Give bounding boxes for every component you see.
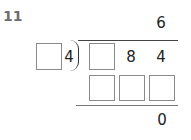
quotient-digit: 6 (155, 16, 167, 31)
remainder-digit: 0 (156, 113, 168, 128)
division-bar (78, 40, 178, 41)
divisor-tens-blank-box[interactable] (36, 43, 62, 70)
product-blank-box-1[interactable] (89, 75, 115, 101)
dividend-tens-digit: 8 (125, 50, 137, 65)
dividend-ones-digit: 4 (155, 50, 167, 65)
division-bracket (70, 40, 79, 71)
product-blank-box-3[interactable] (149, 75, 175, 101)
dividend-hundreds-blank-box[interactable] (89, 43, 115, 70)
product-blank-box-2[interactable] (119, 75, 145, 101)
question-number: 11 (3, 8, 22, 24)
subtraction-line (76, 105, 178, 106)
